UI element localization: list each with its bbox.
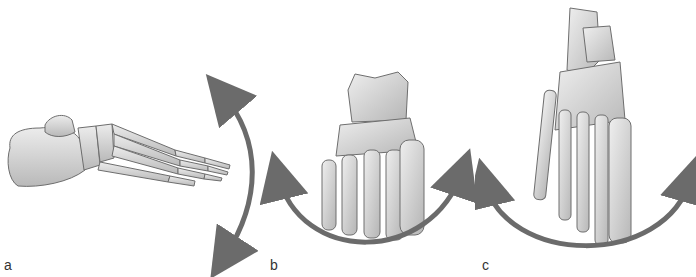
panel-b: b xyxy=(260,0,475,277)
anterior-foot-illustration xyxy=(260,0,475,277)
panel-label-c: c xyxy=(482,257,489,273)
foot-bones-dorsal xyxy=(533,8,631,245)
panel-c: c xyxy=(475,0,696,277)
dorsal-foot-illustration xyxy=(475,0,696,277)
panel-a: a xyxy=(0,0,260,277)
panel-label-a: a xyxy=(4,257,12,273)
panel-label-b: b xyxy=(270,257,278,273)
foot-bones-lateral xyxy=(8,115,230,186)
lateral-foot-illustration xyxy=(0,0,260,277)
foot-bones-anterior xyxy=(322,72,424,240)
double-arrow-vertical-icon xyxy=(222,93,252,258)
